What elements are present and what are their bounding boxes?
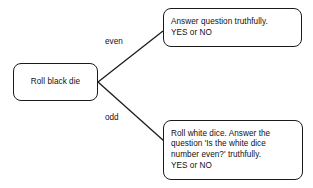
edge-label-even: even — [104, 37, 124, 46]
node-roll-black-die-label: Roll black die — [31, 77, 80, 88]
node-roll-white-dice-label: Roll white dice. Answer the question 'Is… — [171, 129, 270, 171]
edge-label-odd: odd — [104, 113, 120, 122]
node-answer-question-truthfully-label: Answer question truthfully. YES or NO — [171, 17, 268, 38]
node-roll-black-die[interactable]: Roll black die — [13, 63, 98, 101]
edge-odd-line — [98, 82, 164, 141]
node-answer-question-truthfully[interactable]: Answer question truthfully. YES or NO — [163, 8, 302, 47]
node-roll-white-dice[interactable]: Roll white dice. Answer the question 'Is… — [163, 120, 303, 180]
flowchart-diagram: Roll black die Answer question truthfull… — [0, 0, 313, 188]
